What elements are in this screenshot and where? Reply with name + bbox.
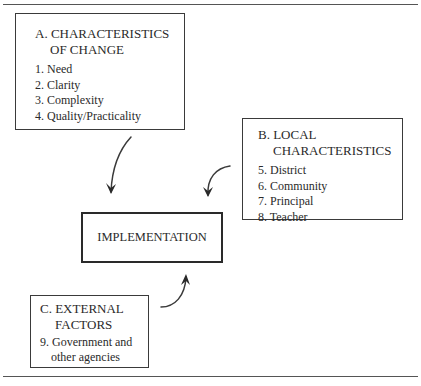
- bottom-rule: [3, 376, 418, 377]
- arrow-b-to-implementation-icon: [208, 166, 230, 195]
- arrow-a-to-implementation-icon: [111, 137, 131, 192]
- arrow-c-to-implementation-icon: [161, 277, 186, 307]
- arrows-layer: [0, 0, 421, 386]
